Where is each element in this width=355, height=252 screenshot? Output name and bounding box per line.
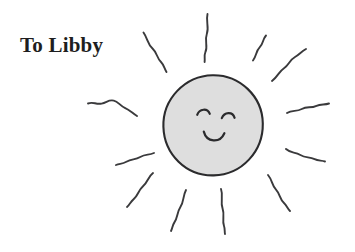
illustration-page: To Libby [0, 0, 355, 252]
sun-body [163, 75, 262, 175]
dedication-text: To Libby [20, 33, 103, 57]
